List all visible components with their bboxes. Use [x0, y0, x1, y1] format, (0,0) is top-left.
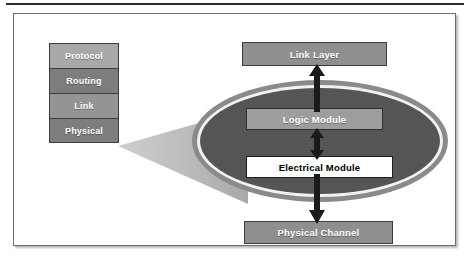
link-layer-box[interactable]: Link Layer [242, 42, 387, 66]
arrow-down-icon [306, 174, 328, 224]
protocol-stack: Protocol Routing Link Physical [49, 43, 119, 143]
stack-layer-routing[interactable]: Routing [49, 68, 119, 93]
logic-module-label: Logic Module [283, 114, 347, 125]
arrow-bidirectional-icon [308, 128, 326, 160]
electrical-module-label: Electrical Module [279, 162, 361, 173]
stack-layer-physical-label: Physical [65, 126, 103, 136]
stack-layer-protocol-label: Protocol [65, 51, 103, 61]
stack-layer-link-label: Link [74, 101, 93, 111]
diagram-canvas: Protocol Routing Link Physical Link Laye… [0, 0, 470, 266]
arrow-up-icon [306, 64, 328, 112]
diagram-frame: Protocol Routing Link Physical Link Laye… [13, 13, 456, 246]
stack-layer-physical[interactable]: Physical [49, 118, 119, 143]
top-divider-rule [6, 3, 464, 5]
physical-channel-label: Physical Channel [278, 227, 360, 238]
stack-layer-protocol[interactable]: Protocol [49, 43, 119, 68]
link-layer-label: Link Layer [290, 49, 340, 60]
stack-layer-link[interactable]: Link [49, 93, 119, 118]
physical-channel-box[interactable]: Physical Channel [244, 221, 393, 244]
stack-layer-routing-label: Routing [66, 76, 101, 86]
